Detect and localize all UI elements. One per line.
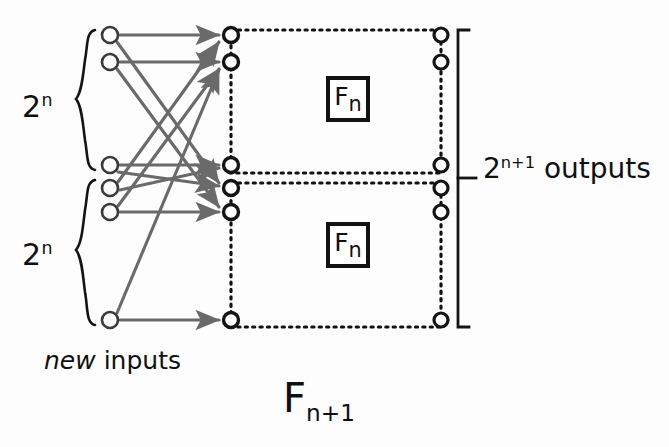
input-node-6[interactable] xyxy=(102,312,118,328)
output-node-4[interactable] xyxy=(434,181,448,195)
output-node-1[interactable] xyxy=(434,28,448,42)
edge-group xyxy=(117,35,219,320)
output-node-3[interactable] xyxy=(434,158,448,172)
input-node-1[interactable] xyxy=(102,27,118,43)
group-size-label-top: 2n xyxy=(22,92,53,122)
outputs-count-label: 2n+1 outputs xyxy=(483,155,651,183)
subfunction-box-top-label: Fn xyxy=(334,82,362,116)
figure-canvas: Fn Fn 2n 2n 2n+1 outputs new inputs Fn+1 xyxy=(0,0,669,447)
mid-node-1[interactable] xyxy=(224,28,239,43)
mid-node-4[interactable] xyxy=(224,181,239,196)
new-inputs-rest: inputs xyxy=(96,346,181,375)
brace-top xyxy=(76,30,95,170)
edge-L6-M2 xyxy=(117,70,219,313)
brace-bottom xyxy=(76,180,95,325)
mid-node-3[interactable] xyxy=(224,158,239,173)
mid-node-5[interactable] xyxy=(224,205,239,220)
output-node-6[interactable] xyxy=(434,313,448,327)
brace-group xyxy=(76,30,95,325)
mid-node-2[interactable] xyxy=(224,55,239,70)
mid-node-6[interactable] xyxy=(224,313,239,328)
input-node-5[interactable] xyxy=(102,204,118,220)
input-node-3[interactable] xyxy=(102,157,118,173)
figure-caption: Fn+1 xyxy=(283,378,355,418)
new-inputs-label: new inputs xyxy=(44,348,181,373)
input-node-2[interactable] xyxy=(102,54,118,70)
group-size-label-bottom: 2n xyxy=(22,240,53,270)
subfunction-box-top[interactable]: Fn xyxy=(326,76,370,122)
input-node-group xyxy=(102,27,118,328)
output-node-2[interactable] xyxy=(434,55,448,69)
new-inputs-emphasis: new xyxy=(44,346,96,375)
input-node-4[interactable] xyxy=(102,180,118,196)
subfunction-box-bottom[interactable]: Fn xyxy=(326,222,370,268)
output-node-5[interactable] xyxy=(434,205,448,219)
outputs-bracket xyxy=(458,30,476,327)
subfunction-box-bottom-label: Fn xyxy=(334,228,362,262)
